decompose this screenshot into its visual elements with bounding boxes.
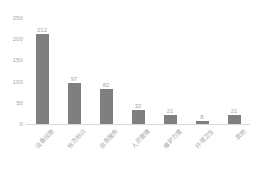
bar-chart: 050100150200250 21297823221821 设备设施标志标识信…	[0, 0, 256, 174]
bar-group[interactable]: 32	[132, 18, 145, 124]
bar-value-label: 97	[71, 76, 78, 82]
y-tick-label: 200	[13, 36, 23, 42]
bar-group[interactable]: 212	[36, 18, 49, 124]
y-tick-label: 0	[20, 121, 23, 127]
x-tick-label: 信息服务	[98, 128, 120, 150]
y-axis: 050100150200250	[0, 18, 23, 124]
x-axis-line	[26, 124, 250, 125]
plot-area: 21297823221821	[26, 18, 250, 124]
bar[interactable]: 32	[132, 110, 145, 124]
bar-group[interactable]: 21	[164, 18, 177, 124]
bar-group[interactable]: 97	[68, 18, 81, 124]
bar[interactable]: 82	[100, 89, 113, 124]
bar-value-label: 212	[37, 27, 47, 33]
bar-value-label: 32	[135, 103, 142, 109]
bar-group[interactable]: 21	[228, 18, 241, 124]
bar-group[interactable]: 82	[100, 18, 113, 124]
y-tick-label: 100	[13, 79, 23, 85]
bar[interactable]: 21	[228, 115, 241, 124]
x-tick-label: 其他	[235, 128, 248, 141]
bar[interactable]: 212	[36, 34, 49, 124]
y-tick-label: 150	[13, 57, 23, 63]
bar-value-label: 21	[167, 108, 174, 114]
bar-value-label: 21	[231, 108, 238, 114]
x-axis: 设备设施标志标识信息服务人员管理维护力度环境卫生其他	[26, 126, 250, 174]
bar[interactable]: 8	[196, 121, 209, 124]
y-tick-label: 250	[13, 15, 23, 21]
bar-value-label: 82	[103, 82, 110, 88]
x-tick-label: 设备设施	[34, 128, 56, 150]
x-tick-label: 标志标识	[66, 128, 88, 150]
bar-value-label: 8	[200, 114, 203, 120]
y-tick-label: 50	[16, 100, 23, 106]
x-tick-label: 环境卫生	[194, 128, 216, 150]
bar-group[interactable]: 8	[196, 18, 209, 124]
bar[interactable]: 97	[68, 83, 81, 124]
x-tick-label: 维护力度	[162, 128, 184, 150]
bar[interactable]: 21	[164, 115, 177, 124]
x-tick-label: 人员管理	[130, 128, 152, 150]
